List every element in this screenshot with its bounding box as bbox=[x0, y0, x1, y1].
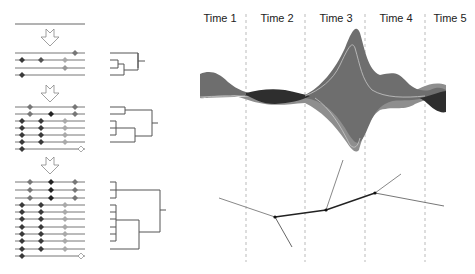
diagram-canvas: Time 1 Time 2 Time 3 Time 4 Time 5 bbox=[0, 0, 475, 274]
hollow-marker bbox=[78, 146, 84, 152]
dendrogram-stage-2 bbox=[110, 107, 158, 142]
hollow-marker bbox=[78, 253, 84, 259]
time-label-4: Time 4 bbox=[379, 12, 412, 24]
dendrogram-stage-1 bbox=[110, 53, 145, 75]
time-label-3: Time 3 bbox=[319, 12, 352, 24]
down-arrow-icon bbox=[41, 157, 59, 174]
main-lineage-path bbox=[275, 193, 375, 217]
time-label-1: Time 1 bbox=[203, 12, 236, 24]
stage-3-lineages bbox=[15, 182, 85, 256]
time-label-5: Time 5 bbox=[433, 12, 466, 24]
tree-node bbox=[373, 191, 376, 194]
mutation-marker bbox=[19, 72, 25, 78]
streamgraph bbox=[200, 29, 446, 152]
tree-node bbox=[324, 208, 327, 211]
stage-2-lineages bbox=[15, 104, 85, 152]
time-dividers bbox=[246, 14, 425, 262]
tree-node bbox=[273, 215, 276, 218]
mutation-marker bbox=[38, 57, 44, 63]
mutation-marker bbox=[19, 57, 25, 63]
dendrogram-stage-3 bbox=[110, 182, 166, 249]
mutation-marker bbox=[72, 50, 78, 56]
time-label-2: Time 2 bbox=[260, 12, 293, 24]
time-labels: Time 1 Time 2 Time 3 Time 4 Time 5 bbox=[203, 12, 466, 24]
phylogeny-tree bbox=[219, 160, 444, 247]
mutation-marker bbox=[62, 57, 68, 63]
down-arrow-icon bbox=[41, 29, 59, 46]
down-arrow-icon bbox=[41, 85, 59, 102]
mutation-marker bbox=[62, 65, 68, 71]
stage-1-lineages bbox=[15, 50, 85, 78]
